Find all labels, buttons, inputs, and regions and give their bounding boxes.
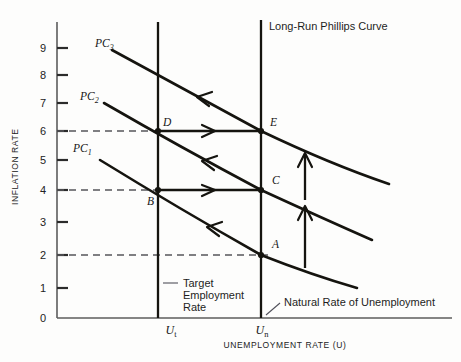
target-employment-line-1: Target [183,277,214,289]
point-label-e: E [269,116,277,128]
x-label-ut: Ut [165,323,177,339]
y-axis-tick-labels: 9 8 7 6 5 4 3 2 1 0 [40,42,46,324]
phillips-curve-pc3 [112,50,389,184]
y-tick-label-7: 7 [40,97,46,109]
target-employment-line-3: Rate [183,301,206,313]
y-tick-label-3: 3 [40,216,46,228]
point-dot-a [258,252,264,258]
natural-rate-leader-line [266,303,280,315]
y-tick-label-8: 8 [40,69,46,81]
y-tick-label-4: 4 [40,184,46,196]
point-dot-e [258,128,264,134]
y-tick-label-0: 0 [40,312,46,324]
target-employment-annotation: Target Employment Rate [183,277,244,313]
target-employment-line-2: Employment [183,289,244,301]
x-axis-title: UNEMPLOYMENT RATE (U) [224,340,347,350]
point-dot-d [155,128,161,134]
point-label-a: A [271,238,280,250]
lrpc-annotation: Long-Run Phillips Curve [269,20,388,32]
y-tick-label-5: 5 [40,154,46,166]
y-axis-title: INFLATION RATE [10,128,20,205]
y-tick-label-6: 6 [40,125,46,137]
vertical-shift-arrows [298,153,312,268]
curve-label-pc1: PC1 [72,142,92,157]
x-label-un: Un [256,323,270,339]
phillips-curve-pc2 [104,103,372,240]
phillips-curve-pc1 [100,160,357,288]
natural-rate-annotation: Natural Rate of Unemployment [284,296,435,308]
point-label-b: B [147,195,154,207]
point-label-d: D [162,116,172,128]
phillips-curve-figure: 9 8 7 6 5 4 3 2 1 0 INFLATION RATE UNEMP… [0,0,461,362]
y-tick-label-9: 9 [40,42,46,54]
chart-canvas: 9 8 7 6 5 4 3 2 1 0 INFLATION RATE UNEMP… [0,0,461,362]
y-tick-label-1: 1 [40,282,46,294]
point-dot-c [258,187,264,193]
point-dot-b [155,187,161,193]
y-axis-ticks [57,48,68,288]
y-tick-label-2: 2 [40,249,46,261]
curve-label-pc3: PC3 [94,37,114,52]
point-label-c: C [272,174,280,186]
curve-label-pc2: PC2 [79,90,99,105]
